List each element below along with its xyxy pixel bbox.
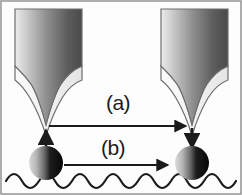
adsorbed-particle-right [175,146,209,180]
schematic-diagram: (a) (b) [0,0,242,195]
label-a: (a) [106,91,130,114]
figure-container: (a) (b) [0,0,242,195]
adsorbed-particle-left [29,146,63,180]
label-b: (b) [101,136,125,159]
